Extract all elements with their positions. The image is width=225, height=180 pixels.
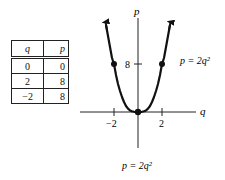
data-point — [159, 61, 165, 67]
x-axis-label: q — [200, 105, 206, 117]
data-point — [135, 109, 141, 115]
parabola-graph: p q 8 −2 2 p = 2q² p = 2q² — [0, 0, 225, 180]
data-point — [111, 61, 117, 67]
y-tick-label: 8 — [125, 59, 130, 70]
y-axis-label: p — [133, 5, 140, 17]
x-tick-label: 2 — [159, 118, 164, 129]
curve-label: p = 2q² — [179, 55, 211, 66]
x-tick-label: −2 — [106, 118, 117, 129]
caption: p = 2q² — [121, 160, 153, 171]
